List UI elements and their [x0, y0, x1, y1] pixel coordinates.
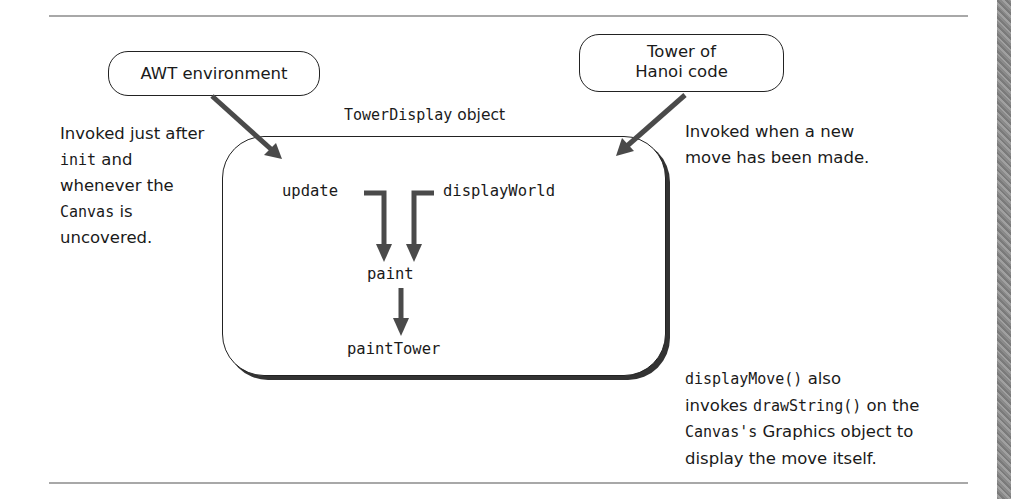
arrows-layer [0, 0, 1011, 499]
arrow-display-world-to-paint [406, 193, 434, 262]
arrow-update-to-paint [364, 193, 392, 262]
arrow-awt-to-update [212, 96, 282, 159]
arrow-paint-to-paint-tower [393, 288, 409, 336]
arrow-hanoi-to-display-world [616, 95, 685, 156]
